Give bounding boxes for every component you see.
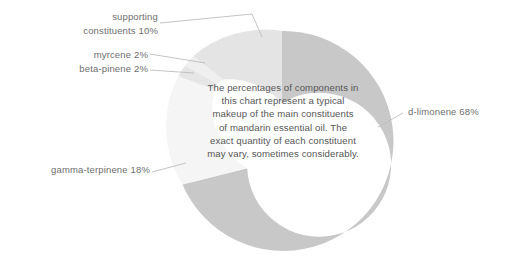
- slice-label-gamma-terpinene: gamma-terpinene 18%: [10, 163, 150, 177]
- slice-label-myrcene: myrcene 2%: [18, 48, 148, 62]
- donut-chart: supporting constituents 10% myrcene 2% b…: [0, 0, 517, 270]
- donut-center-note: The percentages of components in this ch…: [207, 81, 359, 160]
- slice-label-supporting-constituents: supporting constituents 10%: [48, 10, 158, 37]
- slice-label-d-limonene: d-limonene 68%: [408, 105, 517, 119]
- slice-label-beta-pinene: beta-pinene 2%: [8, 62, 148, 76]
